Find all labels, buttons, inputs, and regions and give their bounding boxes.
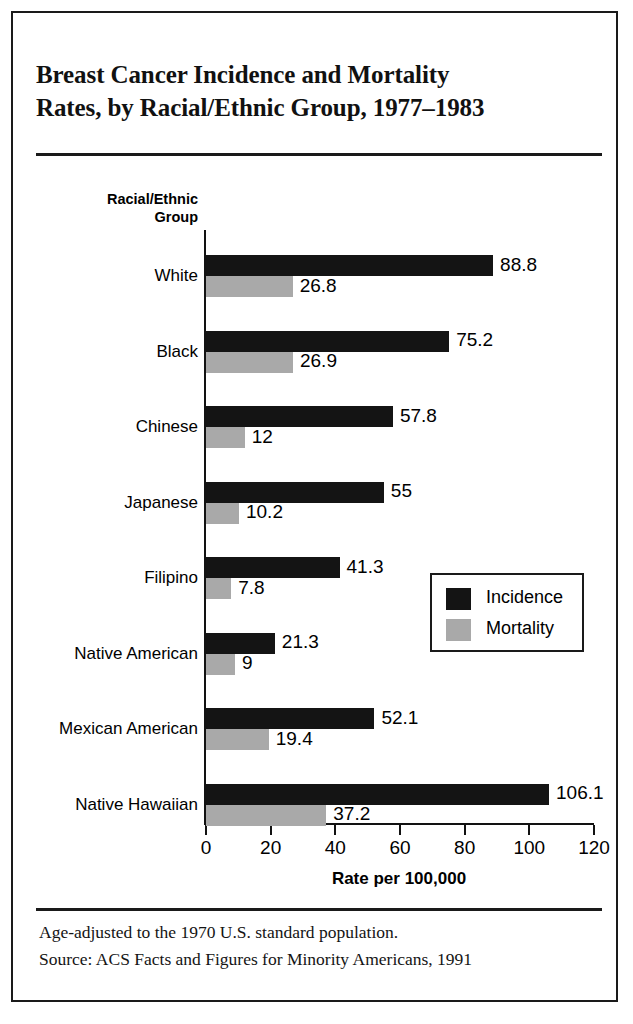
- category-label-black: Black: [38, 342, 198, 362]
- x-tick-label-80: 80: [435, 837, 495, 859]
- bar-mortality-chinese: [206, 427, 245, 448]
- bar-value-mortality-japanese: 10.2: [246, 501, 283, 523]
- x-tick-label-120: 120: [564, 837, 624, 859]
- footnote-line-1: Age-adjusted to the 1970 U.S. standard p…: [39, 919, 605, 946]
- bar-value-mortality-filipino: 7.8: [238, 577, 264, 599]
- bar-incidence-mexican-american: [206, 708, 374, 729]
- bar-incidence-white: [206, 255, 493, 276]
- bar-value-incidence-black: 75.2: [456, 329, 493, 351]
- x-tick-100: [528, 825, 530, 835]
- x-tick-label-60: 60: [370, 837, 430, 859]
- bar-mortality-black: [206, 352, 293, 373]
- footnote-line-2: Source: ACS Facts and Figures for Minori…: [39, 946, 605, 973]
- legend-swatch-mortality-icon: [446, 619, 471, 641]
- figure-panel: Breast Cancer Incidence and Mortality Ra…: [11, 11, 618, 1002]
- bar-value-mortality-chinese: 12: [252, 426, 273, 448]
- bar-mortality-white: [206, 276, 293, 297]
- category-label-chinese: Chinese: [38, 417, 198, 437]
- footnote-divider-rule: [36, 908, 602, 911]
- bar-value-incidence-chinese: 57.8: [400, 405, 437, 427]
- bar-mortality-native-hawaiian: [206, 805, 326, 826]
- bar-incidence-native-american: [206, 633, 275, 654]
- bar-incidence-filipino: [206, 557, 340, 578]
- bar-value-mortality-native-american: 9: [242, 652, 253, 674]
- x-tick-80: [464, 825, 466, 835]
- bar-value-incidence-filipino: 41.3: [347, 556, 384, 578]
- bar-value-incidence-mexican-american: 52.1: [381, 707, 418, 729]
- bar-mortality-native-american: [206, 654, 235, 675]
- bar-incidence-black: [206, 331, 449, 352]
- bar-mortality-mexican-american: [206, 729, 269, 750]
- category-label-japanese: Japanese: [38, 493, 198, 513]
- x-tick-label-20: 20: [241, 837, 301, 859]
- x-tick-40: [334, 825, 336, 835]
- bar-value-mortality-mexican-american: 19.4: [276, 728, 313, 750]
- bar-mortality-japanese: [206, 503, 239, 524]
- bar-chart: Racial/Ethnic Group 020406080100120 Whit…: [13, 13, 620, 1004]
- legend-label-incidence: Incidence: [486, 587, 563, 608]
- y-axis-title: Racial/Ethnic Group: [57, 190, 198, 226]
- bar-incidence-chinese: [206, 406, 393, 427]
- legend-swatch-incidence-icon: [446, 588, 471, 610]
- y-axis-title-line-1: Racial/Ethnic: [57, 190, 198, 208]
- bar-value-mortality-white: 26.8: [300, 275, 337, 297]
- y-axis-title-line-2: Group: [57, 208, 198, 226]
- bar-value-incidence-white: 88.8: [500, 254, 537, 276]
- bar-value-mortality-black: 26.9: [300, 350, 337, 372]
- bar-value-incidence-native-american: 21.3: [282, 631, 319, 653]
- x-tick-60: [399, 825, 401, 835]
- x-tick-label-0: 0: [176, 837, 236, 859]
- x-tick-120: [593, 825, 595, 835]
- bar-value-incidence-japanese: 55: [391, 480, 412, 502]
- bar-incidence-japanese: [206, 482, 384, 503]
- x-tick-0: [205, 825, 207, 835]
- x-tick-label-40: 40: [305, 837, 365, 859]
- category-label-filipino: Filipino: [38, 568, 198, 588]
- chart-legend: Incidence Mortality: [430, 573, 584, 652]
- bar-value-incidence-native-hawaiian: 106.1: [556, 782, 604, 804]
- legend-label-mortality: Mortality: [486, 618, 554, 639]
- category-label-native-american: Native American: [38, 644, 198, 664]
- bar-mortality-filipino: [206, 578, 231, 599]
- figure-footnotes: Age-adjusted to the 1970 U.S. standard p…: [39, 919, 605, 973]
- bar-value-mortality-native-hawaiian: 37.2: [333, 803, 370, 825]
- category-label-mexican-american: Mexican American: [38, 719, 198, 739]
- category-label-native-hawaiian: Native Hawaiian: [38, 795, 198, 815]
- x-axis-title: Rate per 100,000: [204, 869, 594, 889]
- bar-incidence-native-hawaiian: [206, 784, 549, 805]
- x-tick-20: [270, 825, 272, 835]
- category-label-white: White: [38, 266, 198, 286]
- x-tick-label-100: 100: [499, 837, 559, 859]
